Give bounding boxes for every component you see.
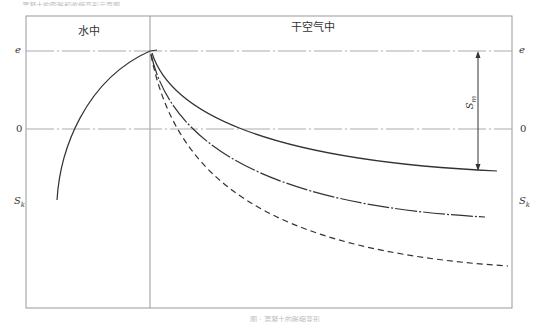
right-zero-label: 0 — [520, 124, 526, 134]
air-curve-dashed — [151, 55, 508, 266]
water-curve — [57, 51, 150, 200]
frame — [26, 16, 512, 308]
figure-caption: 图 · 混凝土的胀缩变形 — [250, 314, 350, 322]
air-curve-dashdot — [151, 54, 485, 217]
header-water: 水中 — [78, 26, 100, 37]
right-e-label: e — [519, 45, 525, 55]
right-sk-label: Sk — [519, 196, 530, 209]
diagram-canvas — [0, 0, 542, 326]
left-sk-label: Sk — [14, 196, 25, 209]
air-curve-solid — [152, 53, 497, 171]
left-e-label: e — [15, 45, 21, 55]
left-zero-label: 0 — [16, 124, 22, 134]
header-air: 干空气中 — [291, 22, 335, 33]
sm-label: Sm — [465, 96, 478, 110]
